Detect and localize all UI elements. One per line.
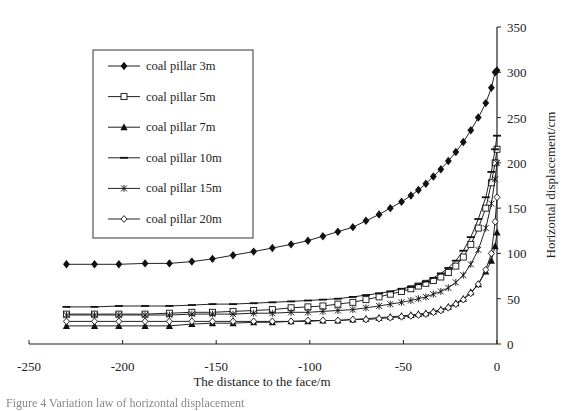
y-axis-title: Horizontal displacement/cm	[543, 112, 558, 259]
diamond-filled-marker-icon	[475, 113, 482, 121]
square-open-marker-icon	[453, 263, 459, 269]
square-open-marker-icon	[363, 297, 369, 303]
y-tick-label: 100	[507, 246, 527, 261]
square-open-marker-icon	[475, 225, 481, 231]
diamond-filled-marker-icon	[269, 244, 276, 252]
diamond-open-marker-icon	[376, 315, 382, 322]
diamond-filled-marker-icon	[166, 259, 173, 267]
diamond-filled-marker-icon	[320, 232, 327, 240]
diamond-open-marker-icon	[423, 311, 429, 318]
asterisk-marker-icon	[475, 246, 481, 253]
legend: coal pillar 3mcoal pillar 5mcoal pillar …	[93, 50, 253, 238]
asterisk-marker-icon	[453, 279, 459, 286]
diamond-filled-marker-icon	[142, 259, 149, 267]
square-open-marker-icon	[468, 241, 474, 247]
square-open-marker-icon	[460, 254, 466, 260]
diamond-filled-marker-icon	[482, 99, 489, 107]
square-open-marker-icon	[335, 301, 341, 307]
x-tick-label: -250	[17, 359, 41, 374]
legend-label: coal pillar 15m	[146, 181, 222, 195]
diamond-filled-marker-icon	[250, 247, 257, 255]
square-open-marker-icon	[483, 205, 489, 211]
asterisk-marker-icon	[445, 284, 451, 291]
diamond-open-marker-icon	[142, 318, 148, 325]
legend-label: coal pillar 3m	[146, 59, 216, 73]
diamond-open-marker-icon	[363, 316, 369, 323]
y-tick-label: 150	[507, 201, 527, 216]
diamond-filled-marker-icon	[376, 210, 383, 218]
square-open-marker-icon	[350, 299, 356, 305]
legend-box	[93, 50, 253, 238]
y-tick-label: 50	[507, 292, 520, 307]
legend-label: coal pillar 7m	[146, 120, 216, 134]
diamond-open-marker-icon	[166, 318, 172, 325]
square-open-marker-icon	[445, 269, 451, 275]
y-ticks: 050100150200250300350	[497, 20, 527, 352]
diamond-filled-marker-icon	[363, 217, 370, 225]
x-tick-label: -100	[298, 359, 322, 374]
square-open-marker-icon	[376, 294, 382, 300]
y-tick-label: 350	[507, 20, 527, 35]
diamond-filled-marker-icon	[305, 237, 312, 245]
asterisk-marker-icon	[488, 200, 494, 207]
diamond-open-marker-icon	[408, 313, 414, 320]
x-tick-label: -150	[204, 359, 228, 374]
diamond-open-marker-icon	[63, 318, 69, 325]
x-tick-label: 0	[494, 359, 501, 374]
x-ticks: -250-200-150-100-500	[17, 340, 500, 374]
legend-label: coal pillar 10m	[146, 151, 222, 165]
diamond-open-marker-icon	[399, 313, 405, 320]
x-axis-title: The distance to the face/m	[193, 374, 330, 389]
diamond-filled-marker-icon	[230, 251, 237, 259]
diamond-open-marker-icon	[387, 314, 393, 321]
diamond-filled-marker-icon	[387, 204, 394, 212]
diamond-filled-marker-icon	[334, 227, 341, 235]
asterisk-marker-icon	[460, 272, 466, 279]
y-tick-label: 200	[507, 156, 527, 171]
diamond-filled-marker-icon	[488, 83, 495, 91]
asterisk-marker-icon	[430, 291, 436, 298]
y-tick-label: 250	[507, 111, 527, 126]
diamond-filled-marker-icon	[288, 240, 295, 248]
diamond-filled-marker-icon	[415, 186, 422, 194]
legend-label: coal pillar 20m	[146, 212, 222, 226]
diamond-filled-marker-icon	[407, 191, 414, 199]
diamond-open-marker-icon	[415, 312, 421, 319]
diamond-open-marker-icon	[494, 194, 500, 201]
diamond-filled-marker-icon	[398, 198, 405, 206]
square-open-marker-icon	[121, 94, 127, 100]
diamond-filled-marker-icon	[115, 260, 122, 268]
diamond-filled-marker-icon	[209, 255, 216, 263]
diamond-filled-marker-icon	[91, 260, 98, 268]
legend-label: coal pillar 5m	[146, 90, 216, 104]
diamond-filled-marker-icon	[188, 257, 195, 265]
figure-caption: Figure 4 Variation law of horizontal dis…	[6, 396, 244, 411]
x-tick-label: -50	[395, 359, 412, 374]
diamond-open-marker-icon	[116, 318, 122, 325]
x-tick-label: -200	[111, 359, 135, 374]
y-tick-label: 300	[507, 65, 527, 80]
asterisk-marker-icon	[483, 225, 489, 232]
diamond-open-marker-icon	[430, 309, 436, 316]
y-tick-label: 0	[507, 337, 514, 352]
diamond-open-marker-icon	[92, 318, 98, 325]
asterisk-marker-icon	[468, 261, 474, 268]
asterisk-marker-icon	[438, 288, 444, 295]
diamond-filled-marker-icon	[63, 260, 70, 268]
diamond-open-marker-icon	[438, 307, 444, 314]
diamond-filled-marker-icon	[349, 223, 356, 231]
